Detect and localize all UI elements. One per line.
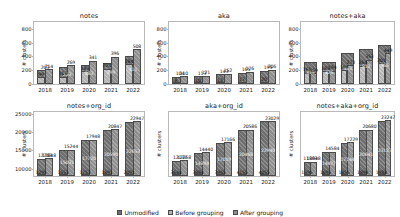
x-tick-label: 2018 — [303, 87, 317, 93]
bar-group: 443273199 — [338, 22, 357, 84]
bar-value-label: 1891 — [101, 170, 112, 175]
x-tick-label: 2019 — [60, 87, 74, 93]
subplot-title: aka — [168, 12, 280, 20]
bar-value-label: 183 — [81, 66, 89, 71]
subplot-title: notes+org_id — [33, 102, 145, 110]
y-tick-label: 200 — [157, 67, 167, 73]
bar-value-label: 1295 — [35, 170, 46, 175]
bar-value-label: 221 — [103, 63, 111, 68]
bar-value-label: 23029 — [265, 116, 279, 121]
x-tick-mark — [133, 176, 134, 178]
plot-area: # clusters201812137122683644201914394144… — [168, 111, 280, 177]
bar-value-label: 284 — [125, 59, 133, 64]
subplot-notes: notes# clusters0200400600800201820321499… — [33, 12, 145, 96]
legend-label: Unmodified — [124, 209, 158, 216]
y-tick-label: 0 — [28, 81, 31, 87]
bar-value-label: 20680 — [362, 124, 376, 129]
x-tick-mark — [348, 84, 349, 86]
bar-group: 14477145841695 — [320, 112, 339, 176]
y-tick-mark — [167, 84, 169, 85]
bar-group: 12703128481295 — [34, 112, 56, 176]
bar-group: 565449301 — [375, 22, 394, 84]
y-tick-label: 0 — [295, 81, 298, 87]
bar-group: 299396221 — [100, 22, 122, 84]
x-tick-label: 2021 — [359, 87, 373, 93]
bar-value-label: 14477 — [322, 161, 336, 166]
bar-value-label: 17229 — [344, 137, 358, 142]
bar-after — [180, 76, 188, 84]
x-tick-label: 2020 — [82, 179, 96, 185]
subplot-title: aka+org_id — [168, 102, 280, 110]
bar-value-label: 1395 — [301, 170, 312, 175]
bar-value-label: 20468 — [239, 152, 253, 157]
y-tick-label: 200 — [22, 67, 32, 73]
x-tick-mark — [67, 84, 68, 86]
y-tick-label: 600 — [22, 40, 32, 46]
bar-value-label: 20590 — [104, 152, 118, 157]
bar-value-label: 1695 — [320, 170, 331, 175]
bar-value-label: 1753 — [79, 170, 90, 175]
x-tick-label: 2018 — [38, 87, 52, 93]
x-tick-mark — [111, 84, 112, 86]
x-tick-label: 2018 — [38, 179, 52, 185]
x-tick-mark — [111, 176, 112, 178]
bar-group: 17720179481753 — [78, 112, 100, 176]
bar-after — [224, 74, 232, 84]
x-tick-label: 2018 — [173, 179, 187, 185]
x-tick-mark — [224, 176, 225, 178]
bar-value-label: 4155 — [236, 170, 247, 175]
subplot-aka: aka# clusters020040060080020181041108201… — [168, 12, 280, 96]
bar-value-label: 3884 — [192, 170, 203, 175]
x-tick-label: 2022 — [378, 87, 392, 93]
bar-value-label: 299 — [107, 70, 115, 75]
y-tick-label: 800 — [157, 26, 167, 32]
bar-value-label: 99 — [38, 72, 44, 77]
x-tick-mark — [202, 176, 203, 178]
y-tick-mark — [32, 84, 34, 85]
legend-item-after-grouping: After grouping — [233, 209, 284, 216]
x-tick-label: 2020 — [341, 87, 355, 93]
bar-group: 11312110 — [191, 22, 213, 84]
bar-value-label: 161 — [303, 67, 311, 72]
bar-value-label: 12848 — [42, 153, 56, 158]
bar-before — [260, 82, 268, 84]
bar-value-label: 3965 — [214, 170, 225, 175]
y-tick-label: 400 — [289, 53, 299, 59]
bar-before — [59, 77, 67, 84]
bar-value-label: 508 — [133, 44, 141, 49]
x-tick-mark — [202, 84, 203, 86]
y-tick-label: 20000 — [15, 129, 32, 135]
x-tick-mark — [246, 84, 247, 86]
x-tick-label: 2018 — [303, 179, 317, 185]
legend-swatch-icon — [233, 210, 238, 215]
x-tick-label: 2020 — [217, 179, 231, 185]
x-tick-label: 2021 — [239, 179, 253, 185]
plot-area: # clusters100001500020000250002018127031… — [33, 111, 145, 177]
bar-group: 283341183 — [78, 22, 100, 84]
bar-value-label: 14584 — [325, 146, 339, 151]
y-tick-label: 10000 — [15, 166, 32, 172]
subplot-title: notes — [33, 12, 145, 20]
bar-after — [385, 53, 392, 84]
y-tick-label: 400 — [22, 53, 32, 59]
bar-value-label: 152 — [224, 68, 232, 73]
bar-value-label: 17 — [239, 77, 245, 82]
y-axis-label: # clusters — [288, 131, 294, 157]
bar-value-label: 17019 — [217, 157, 231, 162]
x-tick-mark — [268, 176, 269, 178]
bar-value-label: 12268 — [177, 155, 191, 160]
bar-value-label: 17144 — [340, 157, 354, 162]
bar-value-label: 301 — [377, 58, 385, 63]
x-tick-label: 2019 — [322, 179, 336, 185]
plot-area: # clusters201811863119481395201914477145… — [300, 111, 395, 177]
bar-group: 22940230294055 — [257, 112, 279, 176]
y-tick-label: 400 — [157, 53, 167, 59]
x-tick-label: 2022 — [126, 87, 140, 93]
bar-group: 15031152441553 — [56, 112, 78, 176]
bar-value-label: 3644 — [170, 170, 181, 175]
x-tick-mark — [366, 84, 367, 86]
x-tick-mark — [348, 176, 349, 178]
bar-value-label: 22940 — [261, 148, 275, 153]
legend-swatch-icon — [168, 210, 173, 215]
x-tick-label: 2020 — [341, 179, 355, 185]
